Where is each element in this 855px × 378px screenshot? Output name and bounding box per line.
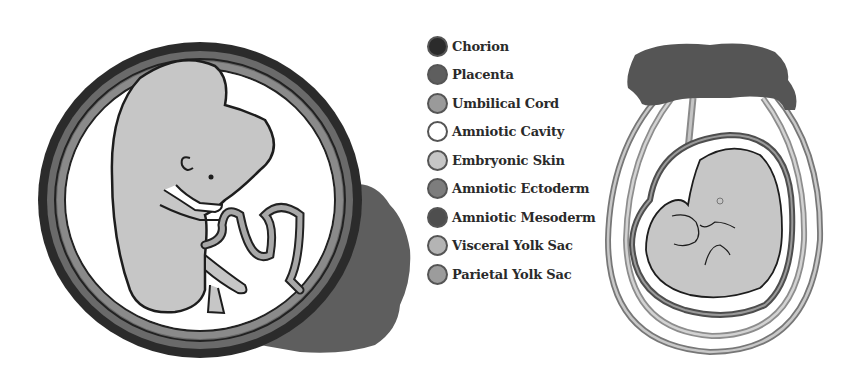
- legend-item-amniotic-mesoderm: Amniotic Mesoderm: [427, 203, 617, 232]
- legend: Chorion Placenta Umbilical Cord Amniotic…: [427, 32, 617, 289]
- legend-item-parietal-yolk-sac: Parietal Yolk Sac: [427, 260, 617, 289]
- legend-item-umbilical-cord: Umbilical Cord: [427, 89, 617, 118]
- human-embryo-diagram: [0, 0, 430, 378]
- umbilical-cord-swatch-icon: [427, 93, 448, 114]
- parietal-yolk-sac-swatch-icon: [427, 264, 448, 285]
- placenta-swatch-icon: [427, 64, 448, 85]
- legend-item-chorion: Chorion: [427, 32, 617, 61]
- amniotic-ectoderm-swatch-icon: [427, 178, 448, 199]
- visceral-yolk-sac-swatch-icon: [427, 235, 448, 256]
- mouse-embryo-diagram: [600, 40, 855, 370]
- amniotic-mesoderm-swatch-icon: [427, 207, 448, 228]
- legend-item-placenta: Placenta: [427, 61, 617, 90]
- amniotic-cavity-swatch-icon: [427, 121, 448, 142]
- embryonic-skin-swatch-icon: [427, 150, 448, 171]
- placenta-shape: [627, 44, 796, 110]
- legend-item-visceral-yolk-sac: Visceral Yolk Sac: [427, 232, 617, 261]
- legend-item-amniotic-cavity: Amniotic Cavity: [427, 118, 617, 147]
- chorion-swatch-icon: [427, 36, 448, 57]
- legend-item-embryonic-skin: Embryonic Skin: [427, 146, 617, 175]
- legend-item-amniotic-ectoderm: Amniotic Ectoderm: [427, 175, 617, 204]
